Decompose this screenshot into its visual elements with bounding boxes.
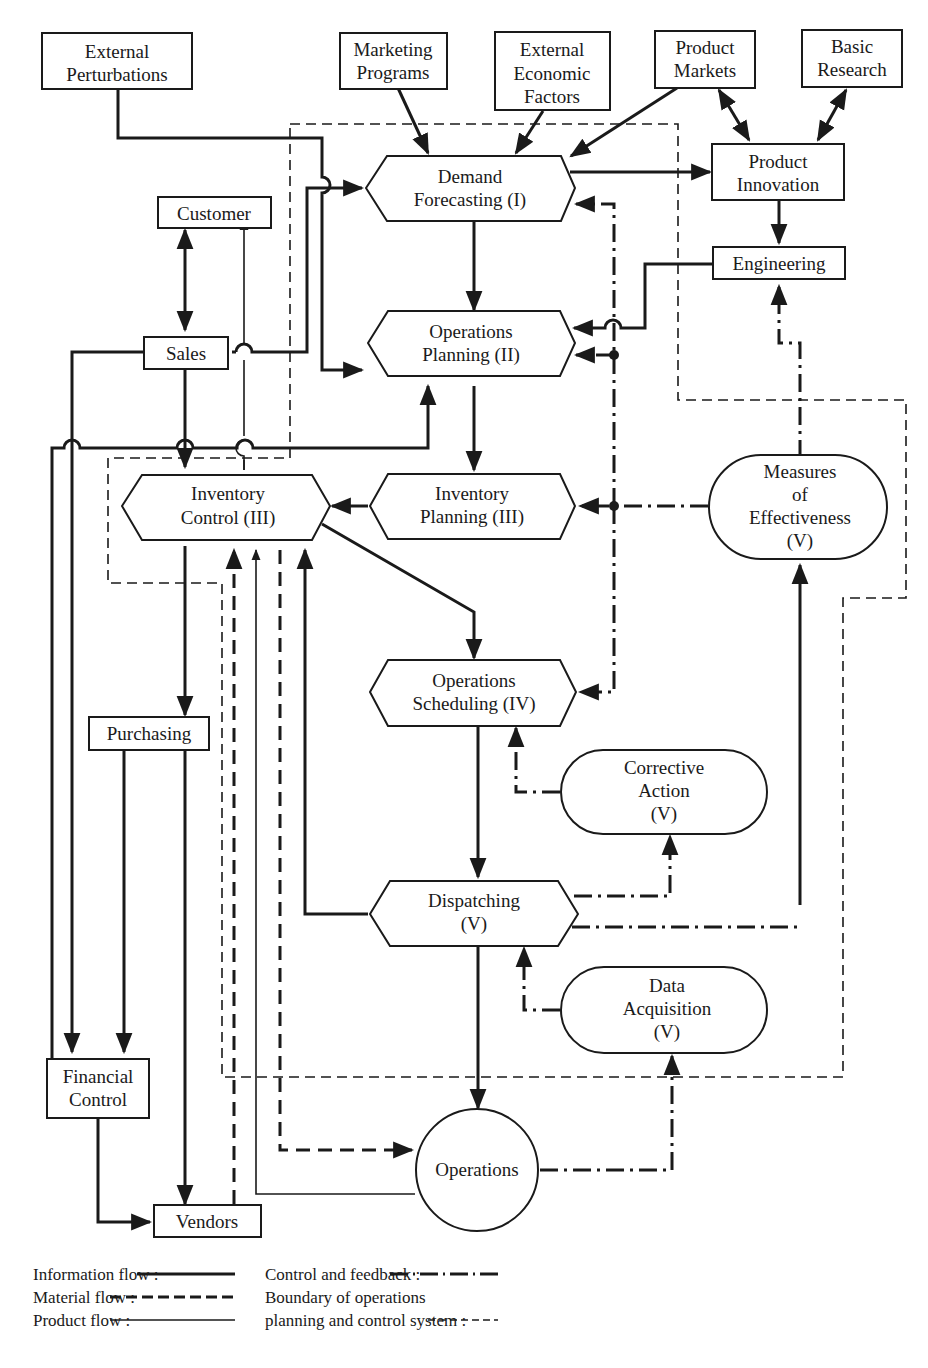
node-measures-of-effectiveness[interactable]: Measures of Effectiveness (V) bbox=[709, 455, 887, 559]
material-flows bbox=[234, 550, 412, 1204]
svg-text:External: External bbox=[520, 39, 584, 60]
svg-text:External: External bbox=[85, 41, 149, 62]
svg-text:Data: Data bbox=[649, 975, 685, 996]
node-demand-forecasting[interactable]: Demand Forecasting (I) bbox=[366, 156, 575, 221]
node-corrective-action[interactable]: Corrective Action (V) bbox=[561, 750, 767, 834]
node-engineering[interactable]: Engineering bbox=[713, 247, 845, 279]
node-product-innovation[interactable]: Product Innovation bbox=[712, 144, 844, 200]
svg-text:(V): (V) bbox=[787, 530, 813, 552]
svg-text:Economic: Economic bbox=[513, 63, 590, 84]
legend-boundary-line2: planning and control system : bbox=[265, 1311, 466, 1330]
node-customer[interactable]: Customer bbox=[158, 197, 271, 228]
node-operations-scheduling[interactable]: Operations Scheduling (IV) bbox=[370, 660, 576, 726]
svg-text:Sales: Sales bbox=[166, 343, 206, 364]
node-marketing-programs[interactable]: Marketing Programs bbox=[340, 33, 447, 89]
svg-text:Control (III): Control (III) bbox=[181, 507, 275, 529]
node-inventory-control[interactable]: Inventory Control (III) bbox=[122, 475, 330, 540]
svg-text:Vendors: Vendors bbox=[176, 1211, 238, 1232]
node-financial-control[interactable]: Financial Control bbox=[47, 1059, 149, 1118]
svg-text:Control: Control bbox=[69, 1089, 127, 1110]
operations-planning-diagram: External Perturbations Marketing Program… bbox=[0, 0, 928, 1368]
svg-text:Purchasing: Purchasing bbox=[107, 723, 192, 744]
node-sales[interactable]: Sales bbox=[144, 337, 228, 369]
svg-text:Research: Research bbox=[817, 59, 887, 80]
svg-text:Inventory: Inventory bbox=[191, 483, 265, 504]
svg-text:Action: Action bbox=[638, 780, 690, 801]
node-dispatching[interactable]: Dispatching (V) bbox=[370, 881, 578, 946]
node-external-perturbations[interactable]: External Perturbations bbox=[42, 33, 192, 89]
svg-text:Operations: Operations bbox=[435, 1159, 518, 1180]
svg-text:Forecasting (I): Forecasting (I) bbox=[414, 189, 526, 211]
node-vendors[interactable]: Vendors bbox=[154, 1205, 261, 1237]
node-operations-planning[interactable]: Operations Planning (II) bbox=[368, 311, 575, 376]
svg-text:Corrective: Corrective bbox=[624, 757, 704, 778]
svg-text:Factors: Factors bbox=[524, 86, 580, 107]
node-product-markets[interactable]: Product Markets bbox=[655, 31, 755, 88]
svg-text:Basic: Basic bbox=[831, 36, 873, 57]
svg-text:Effectiveness: Effectiveness bbox=[749, 507, 851, 528]
svg-text:Dispatching: Dispatching bbox=[428, 890, 520, 911]
svg-text:Perturbations: Perturbations bbox=[66, 64, 167, 85]
svg-text:Operations: Operations bbox=[429, 321, 512, 342]
svg-text:Planning (III): Planning (III) bbox=[420, 506, 524, 528]
svg-text:Customer: Customer bbox=[177, 203, 252, 224]
node-inventory-planning[interactable]: Inventory Planning (III) bbox=[370, 474, 575, 539]
legend-boundary-line1: Boundary of operations bbox=[265, 1288, 426, 1307]
svg-text:Planning (II): Planning (II) bbox=[422, 344, 520, 366]
svg-text:of: of bbox=[792, 484, 809, 505]
svg-text:(V): (V) bbox=[654, 1021, 680, 1043]
node-operations[interactable]: Operations bbox=[416, 1109, 538, 1231]
svg-text:Programs: Programs bbox=[357, 62, 430, 83]
node-external-economic-factors[interactable]: External Economic Factors bbox=[495, 32, 610, 110]
svg-text:Product: Product bbox=[675, 37, 735, 58]
node-purchasing[interactable]: Purchasing bbox=[89, 717, 209, 750]
legend: Information flow : Material flow : Produ… bbox=[33, 1265, 498, 1330]
svg-text:Financial: Financial bbox=[63, 1066, 134, 1087]
svg-text:Measures: Measures bbox=[764, 461, 837, 482]
svg-text:Engineering: Engineering bbox=[733, 253, 826, 274]
svg-text:Demand: Demand bbox=[438, 166, 503, 187]
svg-text:Acquisition: Acquisition bbox=[623, 998, 712, 1019]
svg-text:Operations: Operations bbox=[432, 670, 515, 691]
svg-text:Markets: Markets bbox=[674, 60, 736, 81]
svg-text:Innovation: Innovation bbox=[737, 174, 820, 195]
svg-text:Inventory: Inventory bbox=[435, 483, 509, 504]
svg-text:(V): (V) bbox=[651, 803, 677, 825]
node-data-acquisition[interactable]: Data Acquisition (V) bbox=[561, 967, 767, 1053]
svg-text:Product: Product bbox=[748, 151, 808, 172]
svg-text:(V): (V) bbox=[461, 913, 487, 935]
node-basic-research[interactable]: Basic Research bbox=[802, 30, 902, 87]
svg-text:Scheduling (IV): Scheduling (IV) bbox=[413, 693, 536, 715]
svg-text:Marketing: Marketing bbox=[353, 39, 433, 60]
